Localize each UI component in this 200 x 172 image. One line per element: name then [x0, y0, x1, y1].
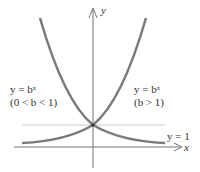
curve-increasing: [22, 18, 146, 143]
curve-decreasing: [40, 18, 165, 143]
x-axis-label: x: [184, 141, 189, 153]
intersection-point: [91, 123, 94, 126]
decreasing-condition: (0 < b < 1): [10, 96, 57, 108]
increasing-equation: y = bˣ: [134, 83, 160, 95]
decreasing-equation: y = bˣ: [10, 83, 36, 95]
asymptote-label: y = 1: [167, 130, 190, 142]
increasing-condition: (b > 1): [134, 96, 164, 108]
y-axis-label: y: [101, 4, 106, 16]
